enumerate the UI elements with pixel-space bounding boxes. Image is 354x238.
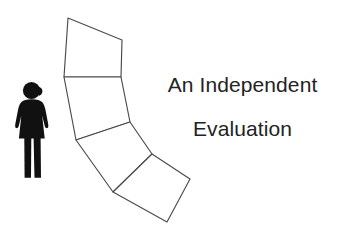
figure-left-leg	[24, 138, 31, 178]
illustration-canvas: An Independent Evaluation	[0, 0, 354, 238]
page-title: An Independent Evaluation	[140, 52, 345, 162]
female-pictogram	[15, 82, 48, 178]
page-title-line-1: An Independent	[140, 74, 345, 96]
figure-head	[23, 82, 40, 99]
figure-hair-notch	[39, 87, 43, 97]
page-title-line-2: Evaluation	[140, 118, 345, 140]
path-segment-1	[64, 18, 122, 77]
figure-torso-dress	[15, 99, 48, 138]
figure-right-leg	[34, 138, 41, 178]
